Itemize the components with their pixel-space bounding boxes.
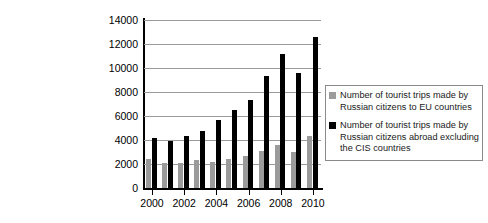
bar-eu-2005 [226, 159, 231, 188]
y-tick-label: 4000 [92, 135, 138, 145]
bar-abroad-2010 [313, 37, 318, 188]
bar-abroad-2004 [216, 120, 221, 188]
y-tick-label: 2000 [92, 159, 138, 169]
bar-eu-2004 [210, 162, 215, 188]
bar-eu-2002 [178, 163, 183, 188]
bar-abroad-2008 [280, 54, 285, 188]
bar-abroad-2000 [152, 138, 157, 188]
bar-abroad-2007 [264, 76, 269, 188]
bar-abroad-2001 [168, 141, 173, 188]
y-tick-label: 8000 [92, 87, 138, 97]
bar-eu-2010 [307, 136, 312, 188]
bar-abroad-2005 [232, 110, 237, 188]
bar-eu-2006 [243, 156, 248, 188]
legend-item-eu: Number of tourist trips made by Russian … [329, 90, 479, 113]
bar-eu-2003 [194, 160, 199, 188]
bar-eu-2000 [146, 159, 151, 188]
bar-eu-2007 [259, 151, 264, 188]
bar-abroad-2009 [296, 73, 301, 188]
gridline [144, 20, 321, 21]
bar-abroad-2003 [200, 131, 205, 188]
legend-swatch-eu-icon [329, 92, 336, 99]
gridline [144, 44, 321, 45]
bar-eu-2008 [275, 145, 280, 188]
bar-abroad-2002 [184, 136, 189, 188]
legend-label-eu: Number of tourist trips made by Russian … [340, 90, 479, 113]
gridline [144, 68, 321, 69]
bar-eu-2001 [162, 163, 167, 188]
legend-swatch-abroad-icon [329, 122, 336, 129]
x-axis-line [143, 188, 323, 190]
x-tick-mark [313, 190, 314, 195]
legend-label-abroad: Number of tourist trips made by Russian … [340, 120, 479, 155]
legend-item-abroad: Number of tourist trips made by Russian … [329, 120, 479, 155]
y-axis-labels: 02000400060008000100001200014000 [86, 0, 138, 223]
x-tick-mark [216, 190, 217, 195]
y-tick-label: 6000 [92, 111, 138, 121]
y-tick-label: 12000 [92, 39, 138, 49]
x-tick-mark [281, 190, 282, 195]
x-tick-label: 2010 [293, 197, 333, 209]
gridline [144, 92, 321, 93]
bar-abroad-2006 [248, 100, 253, 188]
bar-eu-2009 [291, 152, 296, 188]
x-tick-mark [152, 190, 153, 195]
y-tick-label: 0 [92, 183, 138, 193]
legend: Number of tourist trips made by Russian … [325, 85, 483, 161]
y-tick-label: 10000 [92, 63, 138, 73]
x-tick-mark [184, 190, 185, 195]
x-tick-mark [249, 190, 250, 195]
bar-chart: 02000400060008000100001200014000 2000200… [0, 0, 488, 223]
plot-area [144, 20, 321, 188]
y-tick-label: 14000 [92, 15, 138, 25]
